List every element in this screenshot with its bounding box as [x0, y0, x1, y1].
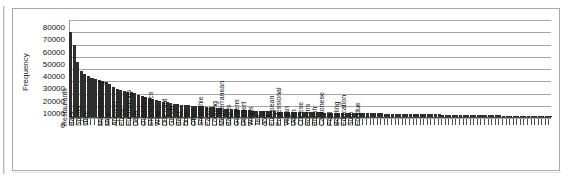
x-category-label-text: Dessert	[239, 102, 246, 126]
y-tick-label: 70000	[43, 36, 65, 44]
x-category-label-text: Vegan	[282, 106, 289, 126]
x-category-label-text: Wings	[246, 107, 253, 126]
x-category-label-text: Discount	[160, 99, 167, 126]
plot-area-wrapper: Frequency 800007000060000500004000030000…	[13, 9, 561, 172]
x-category-label-text: Wine	[153, 110, 160, 126]
x-category-label-text: store	[82, 110, 89, 126]
page-left-edge-shadow	[4, 6, 5, 174]
chart-frame: Frequency 800007000060000500004000030000…	[12, 8, 560, 171]
bar	[90, 78, 93, 117]
x-category-label-text: Diner	[182, 109, 189, 126]
x-category-label-text: Delis	[132, 110, 139, 126]
x-category-label-text: Lodging	[211, 101, 218, 126]
x-category-label-text: Mex	[103, 113, 110, 126]
x-category-label-text: Education	[339, 95, 346, 126]
chart-page: Frequency 800007000060000500004000030000…	[0, 0, 577, 186]
x-category-label-text: Pizza	[118, 109, 125, 126]
y-tick-label: 50000	[43, 61, 65, 69]
x-category-label-text: Tea	[254, 115, 261, 126]
x-category-label-text: Fondue	[354, 102, 361, 126]
x-category-label-text: Sum	[347, 112, 354, 126]
x-category-label-text: Bagels	[225, 105, 232, 126]
y-tick-label: 60000	[43, 49, 65, 57]
x-category-label-text: Cantonese	[318, 92, 325, 126]
x-category-label-text: Manufacturing	[96, 82, 103, 126]
y-tick-label: 80000	[43, 24, 65, 32]
x-category-label-text: Bowling	[332, 101, 339, 126]
bar	[105, 82, 108, 117]
x-category-label-text: Professional	[275, 87, 282, 126]
x-category-label-text: Pool	[325, 112, 332, 126]
x-category-label-text: Electronics	[146, 92, 153, 126]
chart-frame-shadow	[13, 172, 561, 173]
x-category-slot	[548, 126, 552, 172]
x-category-label-text: Office	[189, 108, 196, 126]
x-tick	[548, 119, 552, 125]
x-category-label-text: Apparel	[110, 102, 117, 126]
x-axis-category-labels: RestaurantsBarsSportsstoreManufacturingM…	[69, 126, 551, 172]
x-category-label-text: Cheese	[296, 102, 303, 126]
x-category-label-text: Udon	[289, 109, 296, 126]
y-tick-label: 40000	[43, 73, 65, 81]
x-category-label-text: Pasta	[203, 108, 210, 126]
x-category-label-text: Smoothie	[196, 96, 203, 126]
x-category-label-text: Outdoors	[139, 97, 146, 126]
bar	[69, 32, 72, 117]
x-category-label-text: Restaurants	[60, 88, 67, 126]
x-category-label-text: Gardens	[232, 99, 239, 126]
x-category-label-text: Bars	[67, 112, 74, 126]
